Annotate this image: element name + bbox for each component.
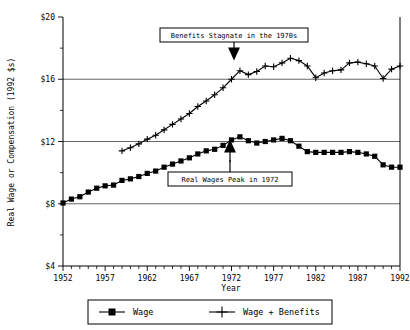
data-point xyxy=(338,150,343,155)
legend-wage-label: Wage xyxy=(133,307,153,317)
y-axis-title: Real Wage or Compensation (1992 $s) xyxy=(7,58,16,227)
y-tick-label-4: $4 xyxy=(45,262,55,271)
data-point xyxy=(296,144,301,149)
data-point xyxy=(372,154,377,159)
x-tick-label-1982: 1982 xyxy=(306,274,325,283)
data-point xyxy=(162,165,167,170)
legend-benefits-label: Wage + Benefits xyxy=(243,307,320,317)
data-point xyxy=(212,147,217,152)
data-point xyxy=(364,151,369,156)
data-point xyxy=(288,138,293,143)
x-tick-label-1957: 1957 xyxy=(95,274,114,283)
data-point xyxy=(178,158,183,163)
y-tick-label-12: $12 xyxy=(41,138,56,147)
data-point xyxy=(103,183,108,188)
annotation-peak-label: Real Wages Peak in 1972 xyxy=(182,176,279,184)
data-point xyxy=(322,150,327,155)
wage-compensation-line-chart: $4$8$12$16$20 19521957196219671972197719… xyxy=(0,0,410,330)
y-tick-label-20: $20 xyxy=(41,13,56,22)
data-point xyxy=(220,143,225,148)
x-tick-label-1987: 1987 xyxy=(348,274,367,283)
data-point xyxy=(389,165,394,170)
data-point xyxy=(271,137,276,142)
y-tick-label-8: $8 xyxy=(45,200,55,209)
data-point xyxy=(119,178,124,183)
data-point xyxy=(170,161,175,166)
data-point xyxy=(111,182,116,187)
data-point xyxy=(77,194,82,199)
data-point xyxy=(313,150,318,155)
x-axis-title: Year xyxy=(221,284,240,293)
data-point xyxy=(246,138,251,143)
data-point xyxy=(195,151,200,156)
legend-wage-marker xyxy=(109,309,116,316)
data-point xyxy=(279,136,284,141)
data-point xyxy=(145,171,150,176)
data-point xyxy=(254,140,259,145)
x-tick-label-1952: 1952 xyxy=(53,274,72,283)
y-tick-label-16: $16 xyxy=(41,75,56,84)
annotation-benefits-label: Benefits Stagnate in the 1970s xyxy=(171,32,297,40)
data-point xyxy=(204,148,209,153)
data-point xyxy=(237,134,242,139)
data-point xyxy=(187,155,192,160)
x-tick-label-1977: 1977 xyxy=(264,274,283,283)
data-point xyxy=(136,174,141,179)
data-point xyxy=(69,196,74,201)
x-tick-label-1972: 1972 xyxy=(222,274,241,283)
data-point xyxy=(153,168,158,173)
x-tick-label-1962: 1962 xyxy=(138,274,157,283)
data-point xyxy=(86,189,91,194)
data-point xyxy=(94,186,99,191)
data-point xyxy=(263,139,268,144)
data-point xyxy=(381,162,386,167)
data-point xyxy=(60,200,65,205)
data-point xyxy=(305,149,310,154)
legend: Wage Wage + Benefits xyxy=(88,300,332,324)
data-point xyxy=(128,176,133,181)
data-point xyxy=(330,150,335,155)
data-point xyxy=(355,150,360,155)
data-point xyxy=(347,149,352,154)
x-tick-label-1967: 1967 xyxy=(180,274,199,283)
data-point xyxy=(397,165,402,170)
x-tick-label-1992: 1992 xyxy=(390,274,409,283)
chart-figure: $4$8$12$16$20 19521957196219671972197719… xyxy=(0,0,410,330)
